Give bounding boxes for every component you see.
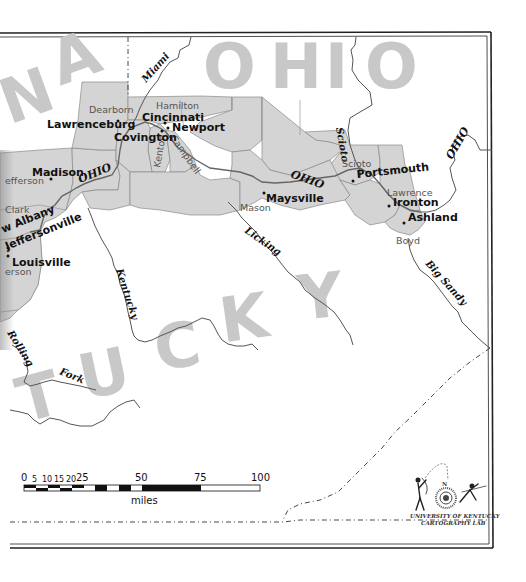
city-label-ashland: Ashland — [408, 211, 458, 224]
scale-tick-0: 0 — [21, 472, 27, 483]
river-label-ohio-3: OHIO — [443, 125, 472, 162]
state-label-kentucky-t: T — [8, 356, 68, 437]
compass-north-letter: N — [442, 481, 447, 487]
city-label-covington: Covington — [114, 131, 177, 144]
river-label-licking: Licking — [242, 224, 283, 258]
city-label-louisville: Louisville — [12, 256, 71, 269]
scale-tick-75: 75 — [194, 472, 207, 483]
scale-tick-15: 15 — [54, 475, 64, 484]
river-label-big-sandy: Big Sandy — [423, 257, 470, 308]
state-label-kentucky-c: C — [148, 306, 206, 386]
scale-unit: miles — [131, 495, 158, 506]
state-label-ohio-o2: O — [365, 30, 418, 103]
river-label-miami: Miami — [139, 50, 172, 85]
city-dot-ashland — [403, 222, 406, 225]
county-label-dearborn: Dearborn — [89, 104, 134, 115]
city-label-newport: Newport — [172, 121, 225, 134]
kentucky-virginia-boundary — [283, 348, 490, 520]
city-dot-newport — [167, 127, 170, 130]
city-label-ironton: Ironton — [393, 196, 439, 209]
county-label-hamilton: Hamilton — [156, 100, 199, 111]
county-ky-north-2 — [130, 165, 240, 215]
city-dot-ironton — [388, 205, 391, 208]
city-dot-louisville — [7, 255, 10, 258]
credit-line-2: CARTOGRAPHY LAB — [421, 520, 486, 526]
city-label-madison: Madison — [32, 166, 84, 179]
scale-tick-50: 50 — [135, 472, 148, 483]
county-label-boyd: Boyd — [396, 235, 420, 246]
kentucky-tennessee-boundary — [10, 520, 489, 522]
map-canvas: N A O H I O T U C K Y — [0, 0, 526, 582]
state-label-kentucky-y: Y — [293, 258, 347, 336]
javelin-thrower-icon — [460, 484, 486, 502]
state-label-ohio-h: H — [270, 30, 322, 103]
scale-tick-20: 20 — [66, 475, 76, 484]
credit-line-1: UNIVERSITY OF KENTUCKY — [410, 513, 501, 519]
city-label-lawrenceburg: Lawrenceburg — [47, 118, 135, 131]
city-label-maysville: Maysville — [266, 192, 324, 205]
state-label-ohio-o1: O — [203, 30, 256, 103]
archer-figure-icon — [416, 478, 427, 510]
compass-rose-icon — [436, 488, 456, 508]
city-dot-portsmouth — [352, 180, 355, 183]
cartography-lab-logo: N UNIVERSITY OF KENTUCKY CARTOGRAPHY LAB — [410, 464, 501, 526]
scale-tick-5: 5 — [32, 475, 37, 484]
scale-tick-10: 10 — [42, 475, 52, 484]
state-label-ohio-i: I — [325, 30, 348, 103]
scale-tick-100: 100 — [251, 472, 270, 483]
scale-bar: 0 5 10 15 20 25 50 75 100 miles — [21, 472, 270, 506]
river-label-kentucky: Kentucky — [114, 266, 141, 322]
scale-tick-25: 25 — [76, 472, 89, 483]
